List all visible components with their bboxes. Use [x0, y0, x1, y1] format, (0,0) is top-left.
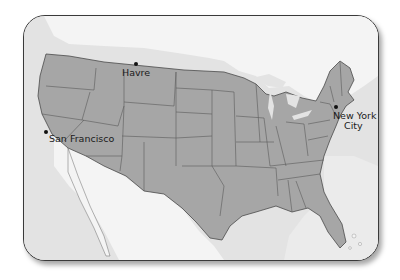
map-frame: Havre San Francisco New York City: [23, 15, 379, 261]
san-francisco-label: San Francisco: [49, 134, 114, 144]
new-york-city-label-line2: City: [344, 121, 363, 131]
havre-label: Havre: [122, 68, 150, 78]
san-francisco-marker: [44, 130, 48, 134]
new-york-city-marker: [334, 105, 338, 109]
havre-marker: [134, 62, 138, 66]
